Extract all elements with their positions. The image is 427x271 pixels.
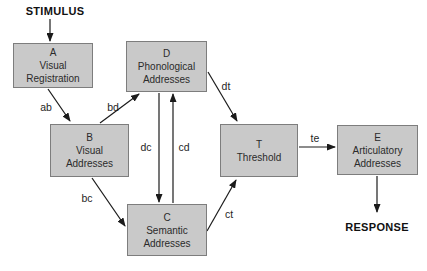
- node-semantic-addresses: C Semantic Addresses: [127, 204, 207, 256]
- node-line2: Addresses: [143, 73, 190, 86]
- node-line1: Threshold: [237, 151, 281, 164]
- arrow-b-to-d: [100, 94, 139, 123]
- node-letter: C: [163, 211, 170, 224]
- node-visual-registration: A Visual Registration: [13, 43, 93, 88]
- node-line1: Visual: [39, 59, 66, 72]
- node-articulatory-addresses: E Articulatory Addresses: [337, 125, 418, 175]
- arrow-c-to-t: [207, 180, 236, 231]
- node-letter: T: [256, 138, 262, 151]
- node-line1: Visual: [76, 144, 103, 157]
- edge-label-dc: dc: [140, 141, 151, 153]
- edge-label-bd: bd: [107, 101, 119, 113]
- edge-label-bc: bc: [81, 192, 92, 204]
- arrow-b-to-c: [92, 178, 125, 226]
- node-letter: D: [163, 47, 170, 60]
- node-line2: Addresses: [354, 157, 401, 170]
- node-line1: Semantic: [146, 224, 188, 237]
- node-letter: E: [374, 131, 381, 144]
- node-threshold: T Threshold: [220, 124, 298, 177]
- edge-label-te: te: [311, 132, 320, 144]
- edge-label-ab: ab: [40, 101, 52, 113]
- node-phonological-addresses: D Phonological Addresses: [126, 41, 207, 92]
- response-label: RESPONSE: [345, 221, 409, 233]
- node-line2: Registration: [26, 72, 79, 85]
- node-line2: Addresses: [66, 157, 113, 170]
- stimulus-label: STIMULUS: [26, 5, 85, 17]
- diagram-canvas: STIMULUS A Visual Registration D Phonolo…: [0, 0, 427, 271]
- node-visual-addresses: B Visual Addresses: [50, 124, 129, 177]
- node-letter: A: [50, 46, 57, 59]
- edge-label-cd: cd: [178, 141, 189, 153]
- edge-label-dt: dt: [222, 80, 231, 92]
- node-line1: Articulatory: [352, 144, 402, 157]
- node-line2: Addresses: [143, 237, 190, 250]
- node-letter: B: [86, 131, 93, 144]
- edge-label-ct: ct: [225, 208, 233, 220]
- node-line1: Phonological: [138, 60, 195, 73]
